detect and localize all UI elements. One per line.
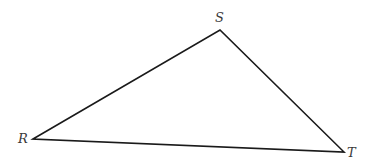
vertex-label-s: S: [215, 10, 224, 25]
triangle-diagram: R S T: [0, 0, 376, 162]
triangle-rst: [33, 30, 344, 152]
vertex-label-r: R: [17, 131, 28, 146]
vertex-label-t: T: [347, 145, 357, 160]
